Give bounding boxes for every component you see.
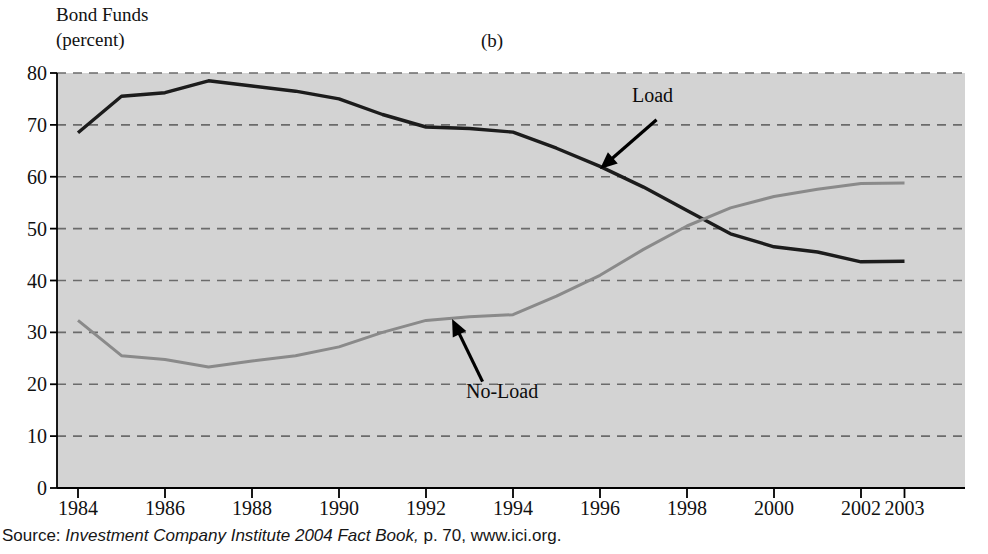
plot-svg (0, 0, 988, 554)
x-tick-label: 1998 (652, 497, 722, 520)
x-tick-label: 1992 (391, 497, 461, 520)
y-tick-label: 60 (3, 165, 47, 188)
series-label-no-load: No-Load (466, 380, 538, 403)
y-tick-label: 30 (3, 321, 47, 344)
x-tick-label: 1996 (565, 497, 635, 520)
source-suffix: p. 70, www.ici.org. (419, 526, 562, 545)
source-citation: Source: Investment Company Institute 200… (2, 526, 561, 546)
series-label-load: Load (632, 84, 673, 107)
x-tick-label: 1986 (130, 497, 200, 520)
x-tick-label: 1994 (478, 497, 548, 520)
annotation-arrows (452, 120, 656, 382)
source-prefix: Source: (2, 526, 65, 545)
source-publication-title: Investment Company Institute 2004 Fact B… (65, 526, 418, 545)
y-tick-label: 40 (3, 269, 47, 292)
x-tick-label: 2000 (739, 497, 809, 520)
y-tick-label: 50 (3, 217, 47, 240)
x-tick-label: 1984 (43, 497, 113, 520)
series-lines (78, 81, 905, 367)
y-tick-label: 70 (3, 113, 47, 136)
x-tick-label: 1988 (217, 497, 287, 520)
y-tick-label: 80 (3, 62, 47, 85)
x-tick-label: 2003 (870, 497, 940, 520)
y-tick-label: 10 (3, 425, 47, 448)
x-tick-label: 1990 (304, 497, 374, 520)
y-tick-label: 0 (3, 477, 47, 500)
chart-figure: Bond Funds (percent) (b) 010203040506070… (0, 0, 988, 554)
y-tick-label: 20 (3, 373, 47, 396)
tick-marks (50, 73, 905, 498)
